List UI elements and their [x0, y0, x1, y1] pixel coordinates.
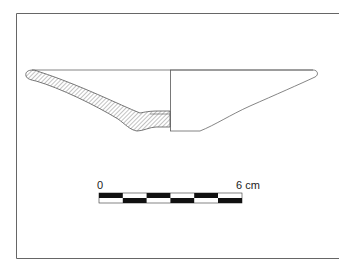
vessel-section-hatched [26, 70, 170, 131]
scale-bar [99, 193, 242, 203]
figure-frame [17, 14, 339, 259]
vessel-exterior-outline [170, 70, 317, 131]
scale-start-label: 0 [97, 180, 103, 191]
scale-end-label: 6 cm [236, 180, 260, 191]
drawing-canvas [0, 0, 339, 266]
